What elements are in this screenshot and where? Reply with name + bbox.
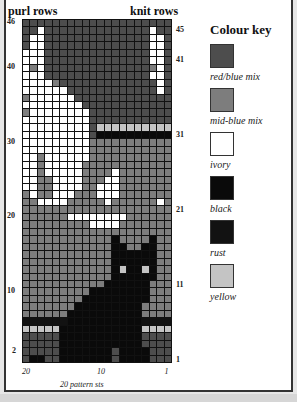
chart-cell [150, 20, 156, 26]
chart-cell [23, 259, 29, 265]
chart-cell [68, 177, 74, 183]
chart-cell [53, 27, 59, 33]
chart-cell [68, 191, 74, 197]
chart-cell [157, 236, 163, 242]
chart-cell [75, 177, 81, 183]
chart-cell [30, 147, 36, 153]
chart-cell [23, 35, 29, 41]
chart-cell [135, 80, 141, 86]
chart-cell [150, 341, 156, 347]
chart-cell [90, 199, 96, 205]
chart-cell [38, 288, 44, 294]
chart-cell [30, 296, 36, 302]
chart-cell [83, 348, 89, 354]
chart-cell [105, 288, 111, 294]
chart-cell [45, 303, 51, 309]
chart-cell [142, 169, 148, 175]
chart-cell [90, 251, 96, 257]
chart-cell [120, 57, 126, 63]
chart-cell [165, 42, 171, 48]
chart-cell [97, 191, 103, 197]
chart-cell [120, 341, 126, 347]
chart-cell [97, 177, 103, 183]
chart-cell [68, 57, 74, 63]
chart-cell [30, 236, 36, 242]
chart-cell [142, 296, 148, 302]
chart-cell [38, 95, 44, 101]
chart-cell [105, 132, 111, 138]
chart-cell [165, 169, 171, 175]
chart-cell [165, 341, 171, 347]
chart-cell [120, 236, 126, 242]
chart-cell [90, 20, 96, 26]
chart-cell [142, 303, 148, 309]
chart-cell [127, 72, 133, 78]
chart-cell [53, 147, 59, 153]
chart-cell [157, 177, 163, 183]
chart-cell [150, 117, 156, 123]
chart-cell [30, 117, 36, 123]
chart-cell [105, 65, 111, 71]
chart-cell [30, 311, 36, 317]
chart-cell [75, 147, 81, 153]
chart-cell [105, 221, 111, 227]
chart-cell [38, 50, 44, 56]
chart-cell [30, 259, 36, 265]
chart-cell [165, 57, 171, 63]
chart-cell [150, 318, 156, 324]
chart-cell [97, 229, 103, 235]
chart-cell [45, 35, 51, 41]
colour-swatch [210, 132, 234, 156]
chart-cell [60, 169, 66, 175]
chart-cell [135, 132, 141, 138]
chart-cell [68, 326, 74, 332]
chart-cell [157, 191, 163, 197]
chart-cell [135, 27, 141, 33]
chart-cell [97, 50, 103, 56]
chart-cell [105, 162, 111, 168]
chart-cell [53, 50, 59, 56]
chart-cell [97, 80, 103, 86]
chart-cell [120, 20, 126, 26]
chart-cell [53, 244, 59, 250]
chart-cell [60, 281, 66, 287]
chart-cell [142, 65, 148, 71]
chart-cell [142, 57, 148, 63]
chart-cell [142, 333, 148, 339]
chart-cell [120, 274, 126, 280]
chart-cell [83, 154, 89, 160]
chart-cell [165, 311, 171, 317]
chart-cell [90, 124, 96, 130]
chart-cell [75, 199, 81, 205]
chart-cell [38, 184, 44, 190]
chart-cell [165, 147, 171, 153]
chart-cell [38, 80, 44, 86]
chart-cell [157, 214, 163, 220]
chart-cell [120, 27, 126, 33]
chart-cell [127, 87, 133, 93]
colour-key-item: ivory [210, 132, 272, 170]
chart-cell [165, 95, 171, 101]
chart-cell [60, 184, 66, 190]
chart-cell [53, 95, 59, 101]
chart-cell [68, 229, 74, 235]
chart-cell [157, 124, 163, 130]
chart-cell [120, 199, 126, 205]
chart-cell [105, 147, 111, 153]
chart-cell [120, 356, 126, 362]
chart-cell [97, 251, 103, 257]
chart-cell [30, 356, 36, 362]
chart-cell [105, 318, 111, 324]
chart-cell [142, 214, 148, 220]
chart-cell [127, 251, 133, 257]
chart-cell [97, 162, 103, 168]
chart-cell [53, 214, 59, 220]
chart-cell [53, 162, 59, 168]
knit-row-label: 41 [176, 55, 184, 64]
chart-cell [120, 221, 126, 227]
colour-key-label: red/blue mix [210, 71, 272, 82]
chart-cell [90, 221, 96, 227]
chart-cell [150, 274, 156, 280]
chart-cell [45, 348, 51, 354]
chart-cell [83, 139, 89, 145]
